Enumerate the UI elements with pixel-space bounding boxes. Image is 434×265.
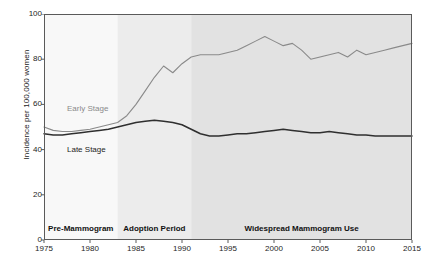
band-0 <box>44 14 118 240</box>
y-axis-ticks: 020406080100 <box>12 0 42 265</box>
y-tick-100: 100 <box>16 9 42 18</box>
chart-container: Incidence per 100,000 women 020406080100… <box>0 0 434 265</box>
band-2 <box>191 14 412 240</box>
y-tick-40: 40 <box>16 145 42 154</box>
band-label-1: Adoption Period <box>123 224 185 233</box>
series-annotation-0: Early Stage <box>67 104 108 113</box>
band-1 <box>118 14 192 240</box>
series-annotation-1: Late Stage <box>67 145 106 154</box>
band-label-2: Widespread Mammogram Use <box>245 224 359 233</box>
y-tick-60: 60 <box>16 99 42 108</box>
plot-area <box>40 14 408 240</box>
band-label-0: Pre-Mammogram <box>48 224 113 233</box>
plot-svg <box>40 14 416 246</box>
y-tick-80: 80 <box>16 54 42 63</box>
y-tick-20: 20 <box>16 190 42 199</box>
